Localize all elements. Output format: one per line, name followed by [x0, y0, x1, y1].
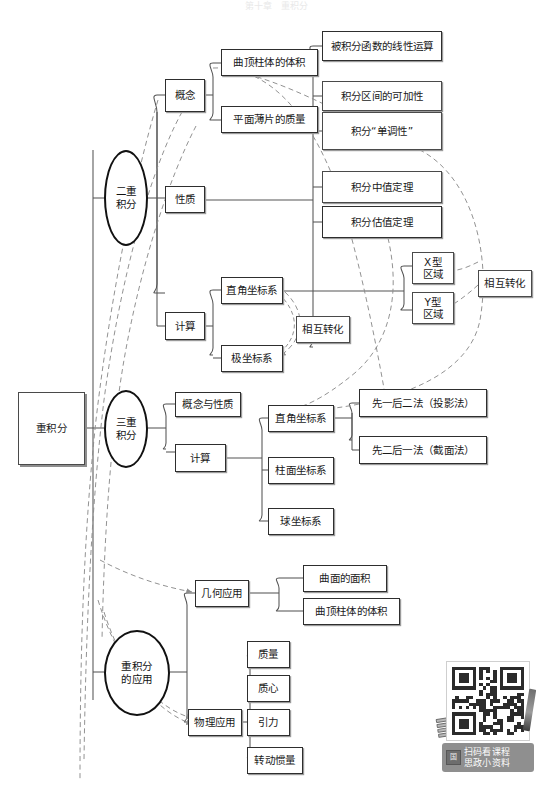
node-computation-3d[interactable]: 计算	[175, 444, 226, 472]
node-estimation-theorem[interactable]: 积分估值定理	[322, 206, 442, 238]
branch-triple-integral[interactable]: 三重 积分	[104, 390, 148, 468]
node-cartesian-3d[interactable]: 直角坐标系	[268, 405, 334, 432]
root-node-multiple-integral[interactable]: 重积分	[18, 392, 85, 465]
node-interval-additivity[interactable]: 积分区间的可加性	[322, 81, 442, 111]
node-cylindrical-coordinates[interactable]: 柱面坐标系	[268, 457, 334, 484]
annotation-mutual-conversion-coordinates[interactable]: 相互转化	[296, 316, 350, 343]
node-physical-applications[interactable]: 物理应用	[188, 709, 242, 736]
node-concept[interactable]: 概念	[165, 79, 205, 112]
annotation-mutual-conversion-region[interactable]: 相互转化	[478, 270, 532, 297]
node-geometric-applications[interactable]: 几何应用	[195, 580, 249, 607]
node-first-two-then-one-section[interactable]: 先二后一法（截面法）	[359, 436, 487, 464]
node-monotonicity[interactable]: 积分“单调性”	[322, 112, 442, 150]
qr-matrix	[452, 667, 524, 735]
node-y-type-region[interactable]: Y型 区域	[412, 292, 454, 324]
qr-caption-line1: 扫码看课程	[464, 747, 530, 758]
qr-caption-line2: 思政小资料	[464, 758, 530, 769]
node-moment-of-inertia[interactable]: 转动惯量	[247, 747, 303, 774]
branch-double-integral[interactable]: 二重 积分	[104, 150, 148, 246]
node-mean-value-theorem[interactable]: 积分中值定理	[322, 171, 442, 203]
mindmap-canvas: 第十章 重积分	[0, 0, 554, 807]
node-properties[interactable]: 性质	[165, 186, 205, 213]
qr-code-icon[interactable]	[446, 661, 530, 741]
node-linear-operation[interactable]: 被积分函数的线性运算	[322, 31, 442, 61]
node-first-one-then-two-projection[interactable]: 先一后二法（投影法）	[359, 389, 487, 417]
node-centroid[interactable]: 质心	[247, 675, 290, 702]
node-mass[interactable]: 质量	[247, 641, 290, 668]
node-x-type-region[interactable]: X型 区域	[412, 252, 454, 284]
qr-caption-icon: 国	[446, 750, 461, 765]
node-cartesian-2d[interactable]: 直角坐标系	[221, 277, 283, 304]
node-polar-2d[interactable]: 极坐标系	[221, 345, 283, 372]
qr-card[interactable]: 国 扫码看课程 思政小资料	[434, 661, 542, 773]
node-curved-cylinder-volume-app[interactable]: 曲顶柱体的体积	[303, 598, 400, 625]
node-surface-area[interactable]: 曲面的面积	[303, 565, 387, 592]
qr-caption[interactable]: 国 扫码看课程 思政小资料	[442, 743, 534, 772]
node-gravitation[interactable]: 引力	[247, 709, 290, 736]
node-curved-top-cylinder-volume[interactable]: 曲顶柱体的体积	[221, 49, 318, 76]
node-plane-lamina-mass[interactable]: 平面薄片的质量	[221, 106, 318, 133]
node-concept-and-properties[interactable]: 概念与性质	[175, 392, 241, 417]
qr-caption-text: 扫码看课程 思政小资料	[464, 747, 530, 768]
branch-applications[interactable]: 重积分 的应用	[104, 630, 170, 716]
node-computation-2d[interactable]: 计算	[165, 312, 205, 340]
page-header-faint: 第十章 重积分	[186, 0, 366, 10]
node-spherical-coordinates[interactable]: 球坐标系	[268, 508, 334, 535]
